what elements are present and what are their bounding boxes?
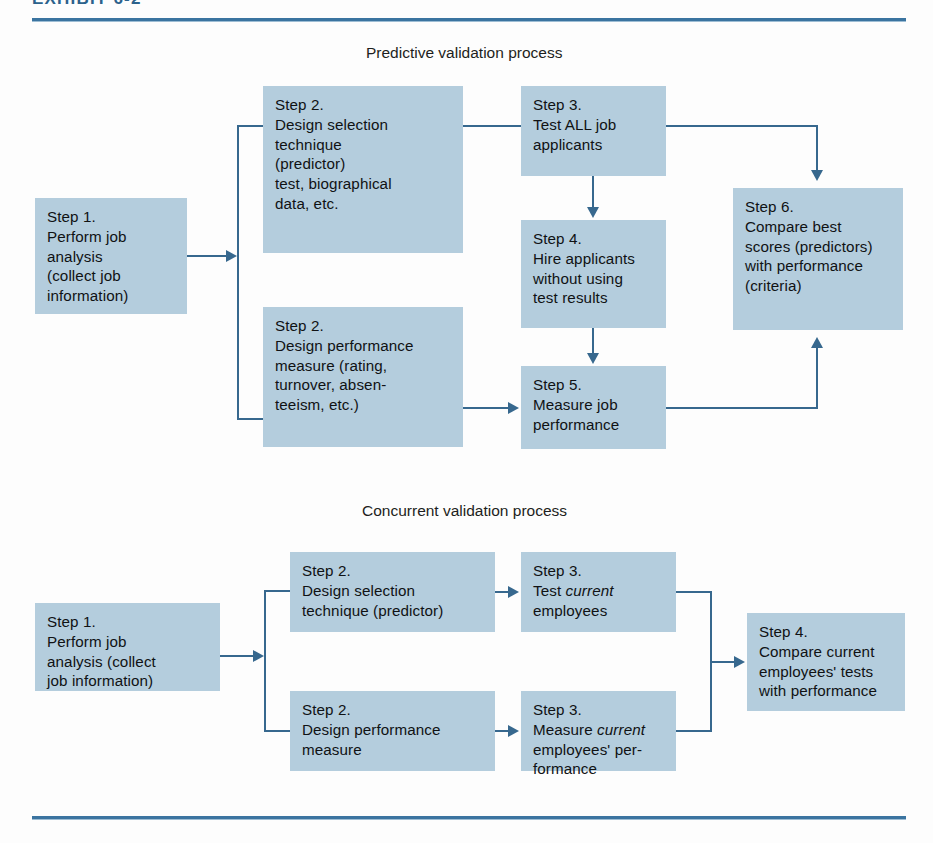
concurrent-conn-step1-out bbox=[220, 655, 256, 657]
predictive-step1-box: Step 1. Perform job analysis (collect jo… bbox=[35, 198, 187, 314]
concurrent-step4-box: Step 4. Compare current employees' tests… bbox=[747, 613, 905, 711]
concurrent-step3-test-box: Step 3. Test current employees bbox=[521, 552, 676, 632]
predictive-arrow-step1-split bbox=[226, 250, 237, 262]
predictive-step3-box: Step 3. Test ALL job applicants bbox=[521, 86, 666, 176]
predictive-arrow-step5-top-in bbox=[587, 353, 599, 364]
predictive-conn-step5-up bbox=[816, 348, 818, 409]
concurrent-merge-branch-top bbox=[676, 591, 712, 593]
concurrent-split-bracket-vertical bbox=[264, 590, 266, 732]
predictive-conn-step2perf-step5 bbox=[463, 407, 510, 409]
exhibit-page: EXHIBIT 6-2 Predictive validation proces… bbox=[0, 0, 933, 843]
concurrent-step3-test-suffix: employees bbox=[533, 602, 607, 619]
concurrent-step2-selection-box: Step 2. Design selection technique (pred… bbox=[290, 552, 495, 632]
predictive-arrow-step5-in bbox=[508, 402, 519, 414]
concurrent-step3-measure-box: Step 3. Measure current employees' per- … bbox=[521, 691, 676, 771]
predictive-arrow-step6-bottom-in bbox=[811, 337, 823, 348]
predictive-step5-box: Step 5. Measure job performance bbox=[521, 366, 666, 449]
concurrent-step2-performance-box: Step 2. Design performance measure bbox=[290, 691, 495, 771]
predictive-conn-step4-step5 bbox=[592, 328, 594, 355]
concurrent-step3-measure-prefix: Step 3. Measure bbox=[533, 701, 597, 738]
predictive-split-bracket-vertical bbox=[237, 125, 239, 420]
concurrent-split-branch-bottom bbox=[264, 730, 290, 732]
concurrent-arrow-step4-in bbox=[734, 656, 745, 668]
predictive-split-branch-top bbox=[237, 125, 263, 127]
concurrent-step3-test-emphasis: current bbox=[566, 582, 614, 599]
concurrent-arrow-step3-test-in bbox=[508, 586, 519, 598]
exhibit-title: EXHIBIT 6-2 bbox=[32, 0, 142, 9]
predictive-conn-step3-step4 bbox=[592, 176, 594, 209]
concurrent-arrow-step3-measure-in bbox=[508, 725, 519, 737]
predictive-step2-selection-box: Step 2. Design selection technique (pred… bbox=[263, 86, 463, 253]
predictive-step4-box: Step 4. Hire applicants without using te… bbox=[521, 220, 666, 328]
concurrent-step3-measure-emphasis: current bbox=[597, 721, 645, 738]
predictive-split-branch-bottom bbox=[237, 418, 263, 420]
concurrent-split-branch-top bbox=[264, 590, 290, 592]
predictive-conn-step2sel-step3 bbox=[463, 125, 521, 127]
concurrent-step1-box: Step 1. Perform job analysis (collect jo… bbox=[35, 603, 220, 691]
predictive-conn-step1-out bbox=[187, 255, 229, 257]
predictive-arrow-step6-top-in bbox=[811, 170, 823, 181]
predictive-arrow-step4-in bbox=[587, 207, 599, 218]
predictive-conn-step5-right bbox=[666, 407, 818, 409]
predictive-step6-box: Step 6. Compare best scores (predictors)… bbox=[733, 188, 903, 330]
concurrent-arrow-step1-split bbox=[253, 650, 264, 662]
concurrent-merge-branch-bottom bbox=[676, 730, 712, 732]
concurrent-step3-measure-suffix: employees' per- formance bbox=[533, 741, 642, 778]
predictive-conn-step3-right bbox=[666, 125, 818, 127]
predictive-conn-step3-down bbox=[816, 125, 818, 172]
concurrent-conn-merge-step4 bbox=[710, 661, 736, 663]
predictive-section-caption: Predictive validation process bbox=[366, 44, 562, 62]
bottom-rule bbox=[32, 816, 906, 819]
top-rule bbox=[32, 18, 906, 21]
predictive-step2-performance-box: Step 2. Design performance measure (rati… bbox=[263, 307, 463, 447]
concurrent-section-caption: Concurrent validation process bbox=[362, 502, 567, 520]
